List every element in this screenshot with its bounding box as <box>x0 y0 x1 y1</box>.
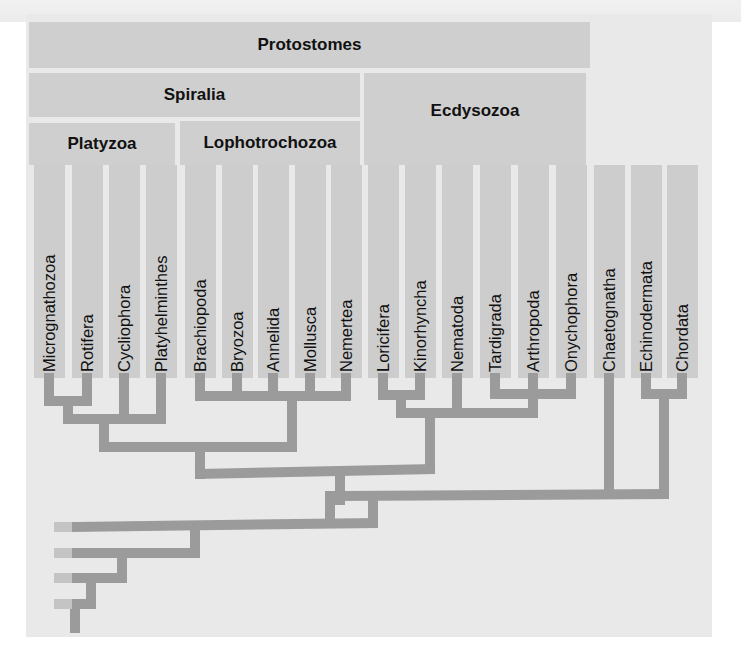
tree-branch <box>340 494 664 496</box>
outgroup-tip <box>54 522 72 532</box>
tree-branch <box>200 469 430 474</box>
tree-branch <box>75 523 373 527</box>
outgroup-tip <box>54 599 72 609</box>
phylogenetic-tree-branches <box>0 0 741 664</box>
outgroup-tip <box>54 573 72 583</box>
outgroup-tip <box>54 548 72 558</box>
